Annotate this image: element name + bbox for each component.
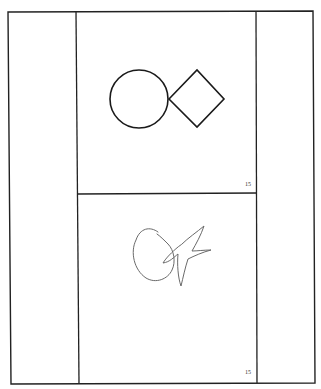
left-column-line [76,12,79,383]
copied-drawing [133,226,211,286]
right-column-line [256,11,257,383]
diamond-shape [169,70,224,127]
circle-shape [110,70,168,128]
panel-divider [77,193,257,194]
page-number-bottom: 15 [245,369,251,375]
page-number-top: 15 [245,181,251,187]
sketch-star [163,226,211,286]
reference-drawing [110,70,224,128]
outer-border [8,11,315,384]
sketch-circle [133,229,174,281]
page-frame [0,0,321,389]
document-page: 15 15 [0,0,321,389]
